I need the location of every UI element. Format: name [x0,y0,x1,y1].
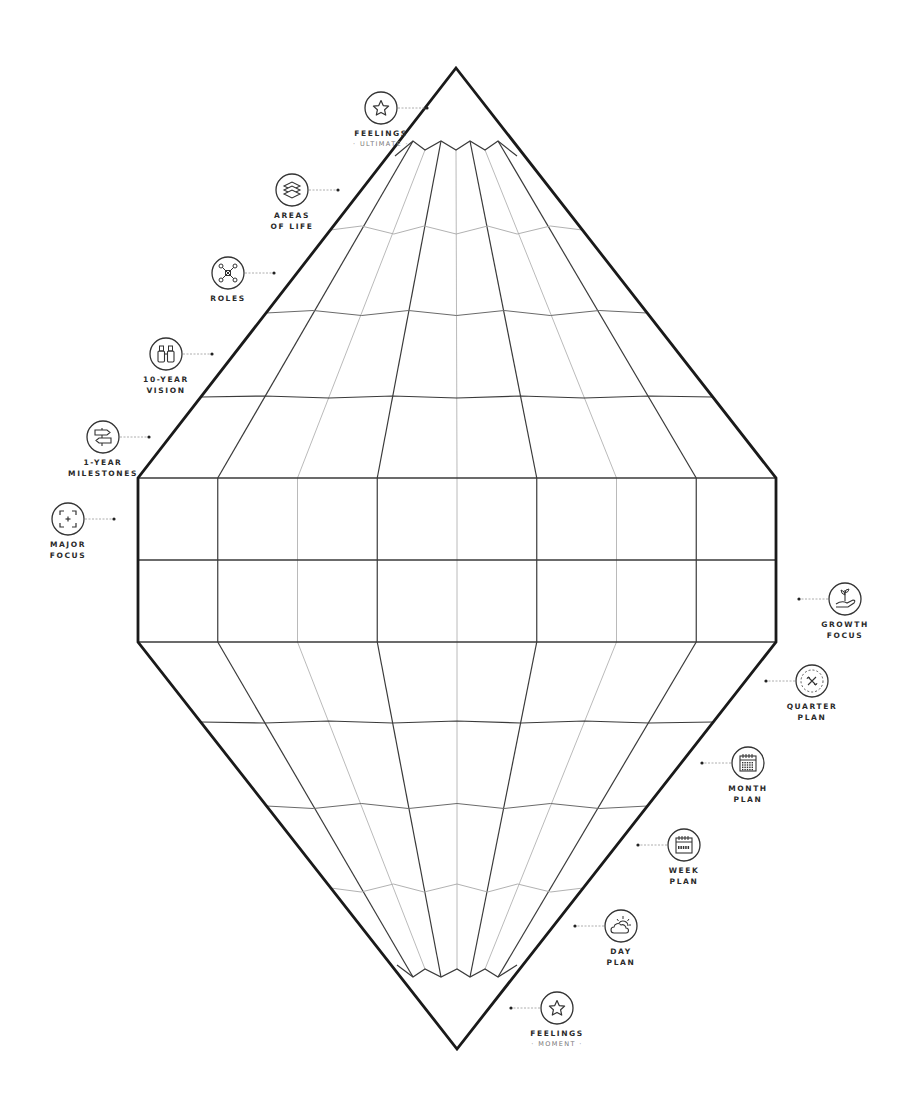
upper-fan-line [298,150,426,478]
lower-fan-line [298,642,426,969]
lower-fan-line [377,642,441,977]
label-title: FEELINGS [353,128,409,139]
connector-dot [147,435,150,438]
planning-diamond-diagram [0,0,920,1109]
connector-dot [272,271,275,274]
connector-dot [700,761,703,764]
label-areas-of-life: AREASOF LIFE [270,210,313,232]
label-feelings-ultimate: FEELINGS· ULTIMATE · [353,128,409,150]
label-title: WEEK [669,865,700,876]
label-subtitle: · MOMENT · [530,1039,584,1050]
label-feelings-moment: FEELINGS· MOMENT · [530,1028,584,1050]
connector-dot [210,352,213,355]
label-title: FEELINGS [530,1028,584,1039]
label-title: ROLES [210,293,245,304]
month-calendar-icon [732,747,764,779]
label-1-year-milestones: 1-YEARMILESTONES [68,457,138,479]
label-quarter-plan: QUARTERPLAN [787,701,838,723]
connector-dot [764,679,767,682]
label-title: QUARTER [787,701,838,712]
icon-ring [541,992,573,1024]
connector-dot [797,597,800,600]
label-month-plan: MONTHPLAN [728,783,768,805]
label-title-line2: PLAN [607,957,636,968]
upper-fan-line [456,150,457,478]
label-day-plan: DAYPLAN [607,946,636,968]
connector-dot [636,843,639,846]
icon-ring [87,421,119,453]
label-title-line2: PLAN [787,712,838,723]
network-icon [212,257,244,289]
label-subtitle: · ULTIMATE · [353,139,409,150]
label-title: AREAS [270,210,313,221]
label-title-line2: MILESTONES [68,468,138,479]
label-title-line2: PLAN [669,876,700,887]
label-title-line2: FOCUS [821,630,869,641]
label-major-focus: MAJORFOCUS [50,539,87,561]
connector-dot [336,188,339,191]
connector-dot [112,517,115,520]
icon-ring [365,92,397,124]
label-title-line2: VISION [143,385,189,396]
label-title: DAY [607,946,636,957]
icon-ring [668,829,700,861]
connector-dot [573,924,576,927]
label-title: 10-YEAR [143,374,189,385]
label-title-line2: OF LIFE [270,221,313,232]
star-icon [541,992,573,1024]
quarter-cycle-icon [796,665,828,697]
star-icon [365,92,397,124]
binoculars-icon [150,338,182,370]
upper-fan-line [218,141,413,478]
label-title: MONTH [728,783,768,794]
layers-icon [276,174,308,206]
label-growth-focus: GROWTHFOCUS [821,619,869,641]
lower-fan-line [498,642,696,977]
label-title: 1-YEAR [68,457,138,468]
label-title: MAJOR [50,539,87,550]
upper-fan-line [498,141,696,478]
lower-fan-line [218,642,413,977]
label-roles: ROLES [210,293,245,304]
label-title: GROWTH [821,619,869,630]
focus-target-icon [52,503,84,535]
lower-fan-line [470,642,537,977]
label-title-line2: FOCUS [50,550,87,561]
signpost-icon [87,421,119,453]
connector-dot [425,106,428,109]
plant-in-hand-icon [829,583,861,615]
label-week-plan: WEEKPLAN [669,865,700,887]
upper-fan-line [470,141,537,478]
label-10-year-vision: 10-YEARVISION [143,374,189,396]
week-calendar-icon [668,829,700,861]
label-title-line2: PLAN [728,794,768,805]
connector-dot [509,1006,512,1009]
sun-cloud-icon [605,910,637,942]
